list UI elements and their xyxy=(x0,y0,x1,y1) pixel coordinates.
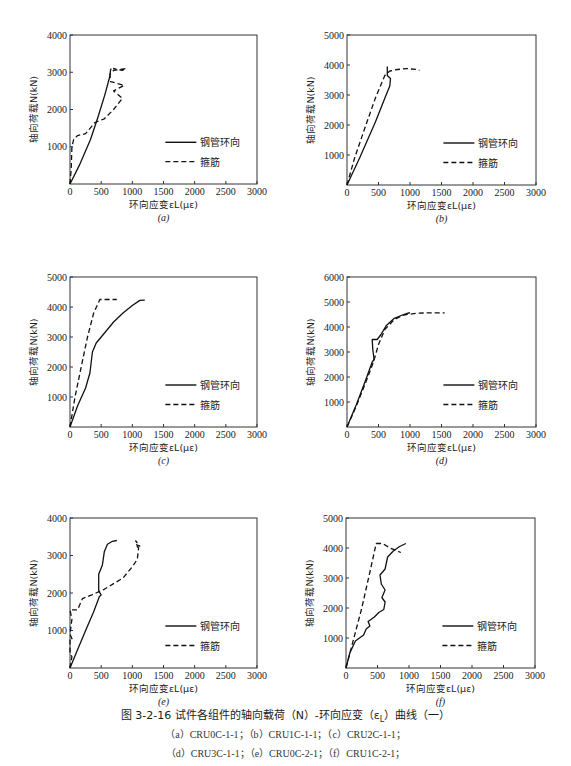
plot-frame xyxy=(347,35,536,185)
x-tick-label: 3000 xyxy=(247,670,267,681)
y-tick-label: 1000 xyxy=(323,633,343,644)
legend-label-stirrup: 箍筋 xyxy=(200,156,220,168)
legend-label-steel-tube-hoop: 钢管环向 xyxy=(478,137,518,149)
x-tick-label: 500 xyxy=(371,429,386,440)
legend-label-steel-tube-hoop: 钢管环向 xyxy=(200,136,240,148)
y-tick-label: 4000 xyxy=(324,60,344,71)
x-tick-label: 3000 xyxy=(526,187,546,198)
y-axis-label: 轴向荷载N(kN) xyxy=(28,76,39,143)
x-tick-label: 0 xyxy=(345,429,350,440)
y-tick-label: 5000 xyxy=(323,513,343,524)
y-tick-label: 3000 xyxy=(323,573,343,584)
y-tick-label: 2000 xyxy=(324,120,344,131)
y-axis-label: 轴向荷载N(kN) xyxy=(305,318,316,385)
x-axis-label: 环向应变εL(με) xyxy=(407,442,476,453)
series-stirrup xyxy=(70,541,140,669)
series-steel-tube-hoop xyxy=(70,300,145,427)
x-axis-label: 环向应变εL(με) xyxy=(129,199,198,210)
y-tick-label: 3000 xyxy=(47,67,67,78)
caption-line-2: （d）CRU3C-1-1；（e）CRU0C-2-1；（f）CRU1C-2-1； xyxy=(0,745,571,760)
y-axis-label: 轴向荷载N(kN) xyxy=(28,559,39,626)
subfigure-label: (a) xyxy=(158,212,170,224)
x-tick-label: 2500 xyxy=(495,187,515,198)
x-tick-label: 0 xyxy=(345,187,350,198)
x-tick-label: 2500 xyxy=(216,429,236,440)
x-tick-label: 1500 xyxy=(431,670,451,681)
x-tick-label: 1500 xyxy=(432,187,452,198)
y-tick-label: 2000 xyxy=(323,603,343,614)
chart-a: 0500100015002000250030001000200030004000… xyxy=(28,30,267,225)
figure-title: 图 3-2-16 试件各组件的轴向载荷（N）-环向应变（εL）曲线（一） xyxy=(0,706,571,724)
x-axis-label: 环向应变εL(με) xyxy=(406,683,475,694)
x-tick-label: 0 xyxy=(68,429,73,440)
x-tick-label: 2500 xyxy=(216,186,236,197)
x-axis-label: 环向应变εL(με) xyxy=(129,683,198,694)
chart-e: 0500100015002000250030001000200030004000… xyxy=(28,513,267,709)
y-tick-label: 4000 xyxy=(324,322,344,333)
x-tick-label: 1000 xyxy=(122,670,142,681)
figure-title-text: 图 3-2-16 试件各组件的轴向载荷（N）-环向应变（ε xyxy=(121,709,380,722)
x-tick-label: 2500 xyxy=(495,429,515,440)
y-tick-label: 3000 xyxy=(47,332,67,343)
chart-d: 0500100015002000250030001000200030004000… xyxy=(305,272,546,468)
y-tick-label: 1000 xyxy=(47,392,67,403)
x-tick-label: 3000 xyxy=(247,429,267,440)
y-tick-label: 2000 xyxy=(47,362,67,373)
series-steel-tube-hoop xyxy=(346,544,406,669)
x-axis-label: 环向应变εL(με) xyxy=(129,442,198,453)
y-tick-label: 1000 xyxy=(47,625,67,636)
x-tick-label: 3000 xyxy=(247,186,267,197)
x-tick-label: 1500 xyxy=(154,670,174,681)
y-axis-label: 轴向荷载N(kN) xyxy=(305,76,316,143)
x-tick-label: 500 xyxy=(94,670,109,681)
y-tick-label: 4000 xyxy=(47,513,67,524)
legend-label-stirrup: 箍筋 xyxy=(478,399,498,411)
y-tick-label: 1000 xyxy=(324,150,344,161)
x-tick-label: 2000 xyxy=(463,187,483,198)
x-tick-label: 0 xyxy=(68,670,73,681)
x-tick-label: 1500 xyxy=(154,429,174,440)
chart-f: 0500100015002000250030001000200030004000… xyxy=(304,513,545,709)
legend-label-stirrup: 箍筋 xyxy=(200,399,220,411)
caption-line-1: （a）CRU0C-1-1；（b）CRU1C-1-1；（c）CRU2C-1-1； xyxy=(0,726,571,741)
series-stirrup xyxy=(347,69,419,185)
x-tick-label: 1500 xyxy=(154,186,174,197)
x-tick-label: 0 xyxy=(68,186,73,197)
legend-label-steel-tube-hoop: 钢管环向 xyxy=(478,379,518,391)
legend-label-stirrup: 箍筋 xyxy=(477,640,497,652)
x-tick-label: 2000 xyxy=(185,670,205,681)
legend-label-stirrup: 箍筋 xyxy=(478,157,498,169)
y-tick-label: 2000 xyxy=(47,588,67,599)
x-tick-label: 2000 xyxy=(185,186,205,197)
x-tick-label: 500 xyxy=(371,187,386,198)
chart-b: 0500100015002000250030001000200030004000… xyxy=(305,30,546,226)
x-tick-label: 1500 xyxy=(432,429,452,440)
figure-title-tail: ）曲线（一） xyxy=(384,709,450,722)
y-tick-label: 5000 xyxy=(324,30,344,41)
y-tick-label: 4000 xyxy=(47,30,67,41)
y-tick-label: 6000 xyxy=(324,272,344,283)
plot-frame xyxy=(70,277,257,427)
x-tick-label: 1000 xyxy=(122,429,142,440)
x-tick-label: 1000 xyxy=(122,186,142,197)
y-tick-label: 3000 xyxy=(47,550,67,561)
plot-frame xyxy=(346,518,535,668)
x-axis-label: 环向应变εL(με) xyxy=(407,200,476,211)
series-stirrup xyxy=(347,313,445,427)
plot-frame xyxy=(70,518,257,668)
subfigure-label: (b) xyxy=(436,213,448,225)
x-tick-label: 500 xyxy=(370,670,385,681)
y-tick-label: 3000 xyxy=(324,347,344,358)
y-tick-label: 1000 xyxy=(47,141,67,152)
x-tick-label: 0 xyxy=(344,670,349,681)
y-axis-label: 轴向荷载N(kN) xyxy=(28,318,39,385)
series-steel-tube-hoop xyxy=(70,69,111,185)
x-tick-label: 1000 xyxy=(399,670,419,681)
y-tick-label: 5000 xyxy=(324,297,344,308)
series-steel-tube-hoop xyxy=(347,67,391,186)
plot-frame xyxy=(347,277,536,427)
y-tick-label: 5000 xyxy=(47,272,67,283)
x-tick-label: 2000 xyxy=(462,670,482,681)
x-tick-label: 1000 xyxy=(400,429,420,440)
series-steel-tube-hoop xyxy=(347,313,410,427)
